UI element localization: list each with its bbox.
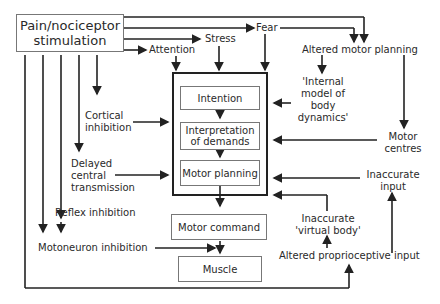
- motor-command-box: Motor command: [171, 214, 267, 240]
- inaccurate-input-label: Inaccurate input: [360, 169, 426, 193]
- altered-motor-planning-label: Altered motor planning: [302, 44, 418, 56]
- intention-box: Intention: [180, 86, 260, 110]
- motoneuron-inhibition-label: Motoneuron inhibition: [38, 242, 148, 254]
- muscle-box: Muscle: [178, 256, 262, 282]
- motor-centres-label: Motor centres: [378, 131, 428, 155]
- inaccurate-virtual-body-label: Inaccurate 'virtual body': [293, 213, 363, 237]
- cortical-inhibition-label: Cortical inhibition: [85, 110, 132, 134]
- internal-model-label: 'Internal model of body dynamics': [293, 76, 353, 124]
- reflex-inhibition-label: Reflex inhibition: [55, 207, 136, 219]
- attention-label: Attention: [149, 44, 195, 56]
- fear-label: Fear: [256, 22, 278, 34]
- altered-proprioceptive-input-label: Altered proprioceptive input: [279, 250, 420, 262]
- pain-stimulation-box: Pain/nociceptor stimulation: [16, 14, 124, 52]
- source-line2: stimulation: [34, 33, 107, 48]
- delayed-central-transmission-label: Delayed central transmission: [71, 158, 135, 194]
- stress-label: Stress: [205, 33, 236, 45]
- interpretation-box: Interpretation of demands: [180, 122, 260, 150]
- motor-planning-box: Motor planning: [180, 160, 260, 186]
- source-line1: Pain/nociceptor: [20, 18, 120, 33]
